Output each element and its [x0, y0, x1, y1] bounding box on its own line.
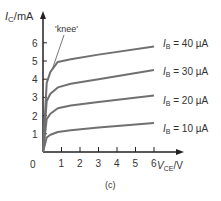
y-tick-label: 1: [32, 129, 38, 140]
knee-pointer: [52, 35, 64, 70]
x-tick-label: 4: [114, 158, 120, 169]
y-tick-label: 2: [32, 111, 38, 122]
chart: 123456123456IB = 40 µAIB = 30 µAIB = 20 …: [0, 0, 221, 201]
x-tick-label: 5: [133, 158, 139, 169]
series-label: IB = 30 µA: [163, 66, 209, 78]
caption: (c): [105, 180, 116, 190]
x-axis-label: VCE/V: [157, 160, 183, 172]
x-tick-label: 2: [77, 158, 83, 169]
x-tick-label: 3: [96, 158, 102, 169]
series-label: IB = 10 µA: [163, 123, 209, 135]
y-tick-label: 4: [32, 74, 38, 85]
series-label: IB = 40 µA: [163, 38, 209, 50]
x-tick-label: 1: [59, 158, 65, 169]
y-axis-arrow-icon: [40, 11, 46, 19]
origin-label: 0: [30, 159, 36, 170]
y-tick-label: 6: [32, 38, 38, 49]
curve-series: [43, 46, 154, 152]
texts: 123456123456IB = 40 µAIB = 30 µAIB = 20 …: [32, 38, 209, 169]
y-tick-label: 5: [32, 56, 38, 67]
curves: [43, 46, 154, 152]
y-axis-label: IC/mA: [5, 10, 34, 24]
knee-annotation: 'knee': [55, 24, 78, 34]
curve-series: [43, 70, 154, 152]
series-label: IB = 20 µA: [163, 95, 209, 107]
x-axis-arrow-icon: [176, 149, 184, 155]
y-tick-label: 3: [32, 92, 38, 103]
